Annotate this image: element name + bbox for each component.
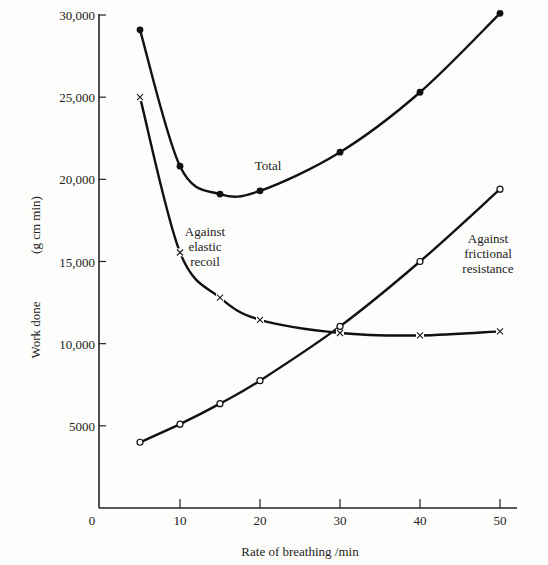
open-circle-marker	[337, 323, 343, 329]
y-tick-label: 10,000	[59, 337, 95, 352]
x-axis-title: Rate of breathing /min	[241, 544, 359, 559]
elastic-recoil-curve	[140, 97, 500, 335]
open-circle-marker	[217, 401, 223, 407]
total-curve	[140, 13, 500, 196]
filled-circle-marker	[177, 163, 184, 170]
open-circle-marker	[177, 421, 183, 427]
work-vs-breathing-rate-chart: 01020304050500010,00015,00020,00025,0003…	[0, 0, 548, 565]
cross-marker	[136, 93, 144, 101]
y-tick-label: 25,000	[59, 90, 95, 105]
cross-marker	[216, 294, 224, 302]
axes: 01020304050500010,00015,00020,00025,0003…	[59, 8, 517, 528]
filled-circle-marker	[257, 187, 264, 194]
y-tick-label: 15,000	[59, 255, 95, 270]
x-tick-label: 40	[414, 513, 427, 528]
y-tick-label: 20,000	[59, 172, 95, 187]
y-axis-units: (g cm min)	[28, 196, 43, 254]
open-circle-marker	[417, 259, 423, 265]
open-circle-marker	[497, 186, 503, 192]
cross-marker	[256, 316, 264, 324]
x-tick-label: 20	[254, 513, 267, 528]
frictional-resistance-label: Againstfrictionalresistance	[462, 231, 513, 276]
filled-circle-marker	[337, 149, 344, 156]
x-tick-label: 0	[89, 513, 96, 528]
filled-circle-marker	[217, 191, 224, 198]
open-circle-marker	[137, 439, 143, 445]
x-tick-label: 30	[334, 513, 347, 528]
cross-marker	[416, 331, 424, 339]
y-tick-label: 5000	[69, 419, 95, 434]
filled-circle-marker	[497, 10, 504, 17]
x-tick-label: 10	[174, 513, 187, 528]
filled-circle-marker	[137, 26, 144, 33]
cross-marker	[496, 327, 504, 335]
cross-marker	[336, 329, 344, 337]
filled-circle-marker	[417, 89, 424, 96]
total-label: Total	[255, 158, 282, 173]
series-annotations: TotalAgainstelasticrecoilAgainstfriction…	[185, 158, 514, 276]
cross-marker	[176, 248, 184, 256]
open-circle-marker	[257, 378, 263, 384]
y-axis-title: Work done	[28, 301, 43, 358]
elastic-recoil-label: Againstelasticrecoil	[185, 224, 226, 269]
y-tick-label: 30,000	[59, 8, 95, 23]
x-tick-label: 50	[494, 513, 507, 528]
